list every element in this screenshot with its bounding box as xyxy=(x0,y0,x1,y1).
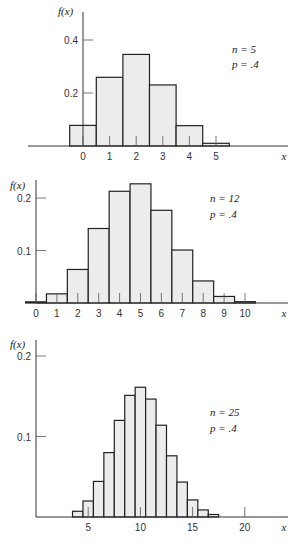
parameter-annotation: n = 25 xyxy=(210,406,240,418)
histogram-bar xyxy=(156,425,166,517)
binomial-chart-n25: 51015200.10.2f(x)xn = 25p = .4 xyxy=(0,0,301,544)
histogram-bar xyxy=(93,481,103,517)
x-axis-label: x xyxy=(281,521,287,533)
histogram-bar xyxy=(198,510,208,517)
y-axis-label: f(x) xyxy=(10,338,26,351)
histogram-bar xyxy=(73,511,83,517)
histogram-bar xyxy=(135,387,145,517)
x-tick-label: 20 xyxy=(239,522,251,533)
histogram-bar xyxy=(104,453,114,517)
y-tick-label: 0.1 xyxy=(17,432,31,443)
histogram-bar xyxy=(114,420,124,517)
histogram-bar xyxy=(167,456,177,517)
histogram-bar xyxy=(146,399,156,517)
histogram-bar xyxy=(125,395,135,517)
parameter-annotation: p = .4 xyxy=(209,422,237,434)
y-tick-label: 0.2 xyxy=(17,351,31,362)
histogram-bar xyxy=(177,482,187,517)
x-tick-label: 10 xyxy=(135,522,147,533)
x-tick-label: 15 xyxy=(187,522,199,533)
x-tick-label: 5 xyxy=(85,522,91,533)
